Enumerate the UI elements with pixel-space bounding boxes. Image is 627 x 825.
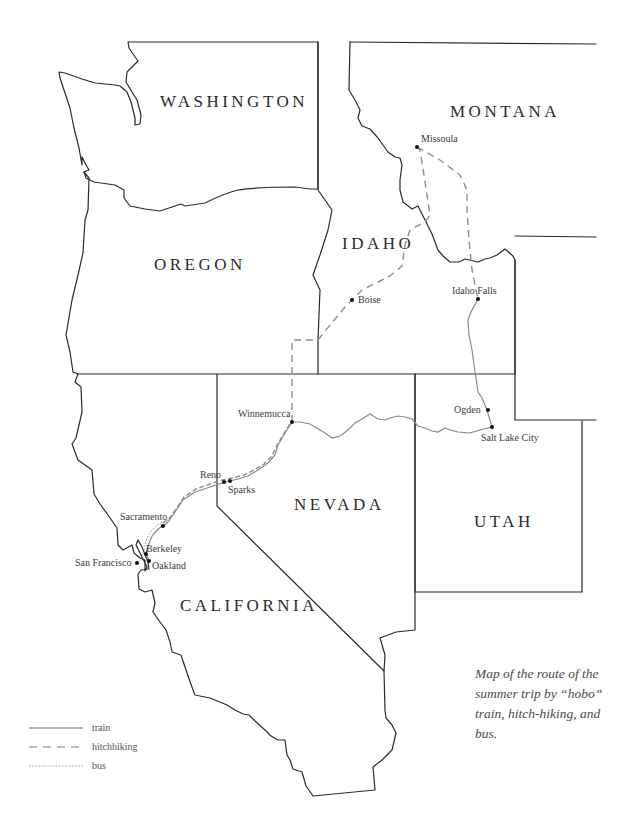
- city-idaho-falls: Idaho Falls: [452, 285, 497, 301]
- city-dot: [228, 479, 232, 483]
- city-label: Salt Lake City: [481, 432, 539, 443]
- city-label: Reno: [200, 469, 221, 480]
- legend: train hitchhiking bus: [29, 722, 138, 771]
- city-dot: [490, 425, 494, 429]
- city-label: Ogden: [454, 404, 481, 415]
- washington-border: [59, 42, 318, 211]
- city-dot: [222, 480, 226, 484]
- city-label: San Francisco: [75, 557, 131, 568]
- city-sacramento: Sacramento: [120, 511, 167, 528]
- california-border: [72, 374, 396, 796]
- state-label-oregon: OREGON: [154, 255, 246, 274]
- state-label-washington: WASHINGTON: [160, 92, 308, 111]
- state-label-california: CALIFORNIA: [180, 596, 318, 615]
- city-missoula: Missoula: [415, 133, 458, 149]
- city-dot: [147, 559, 151, 563]
- city-berkeley: Berkeley: [144, 543, 182, 556]
- idaho-border: [318, 42, 515, 374]
- legend-hitchhiking-label: hitchhiking: [92, 741, 138, 752]
- legend-train: train: [29, 722, 110, 733]
- city-dot: [476, 297, 480, 301]
- city-label: Missoula: [421, 133, 458, 144]
- city-winnemucca: Winnemucca: [238, 408, 294, 424]
- state-label-montana: MONTANA: [450, 102, 560, 121]
- wyoming-border: [350, 42, 596, 420]
- city-label: Boise: [358, 294, 381, 305]
- city-oakland: Oakland: [147, 559, 186, 571]
- city-label: Winnemucca: [238, 408, 291, 419]
- city-dot: [290, 420, 294, 424]
- map-caption: Map of the route of the summer trip by “…: [475, 664, 605, 744]
- city-reno: Reno: [200, 469, 226, 484]
- legend-hitchhiking: hitchhiking: [29, 741, 138, 752]
- city-dot: [135, 561, 139, 565]
- city-sparks: Sparks: [228, 479, 255, 495]
- hitchhiking-route-nevada: [163, 424, 290, 523]
- city-label: Sacramento: [120, 511, 167, 522]
- city-dot: [486, 408, 490, 412]
- legend-train-label: train: [92, 722, 110, 733]
- state-label-utah: UTAH: [474, 512, 534, 531]
- state-labels: WASHINGTON MONTANA OREGON IDAHO NEVADA U…: [154, 92, 560, 615]
- city-dot: [350, 298, 354, 302]
- city-label: Oakland: [152, 560, 186, 571]
- city-label: Sparks: [228, 484, 255, 495]
- city-dot: [415, 145, 419, 149]
- city-san-francisco: San Francisco: [75, 557, 139, 568]
- city-boise: Boise: [350, 294, 381, 305]
- city-dot: [161, 524, 165, 528]
- utah-border: [415, 374, 582, 592]
- legend-bus-label: bus: [92, 760, 106, 771]
- city-label: Idaho Falls: [452, 285, 497, 296]
- legend-bus: bus: [29, 760, 106, 771]
- city-label: Berkeley: [146, 543, 182, 554]
- hitchhiking-route-north: [292, 147, 478, 422]
- state-label-idaho: IDAHO: [342, 234, 414, 253]
- state-label-nevada: NEVADA: [294, 495, 385, 514]
